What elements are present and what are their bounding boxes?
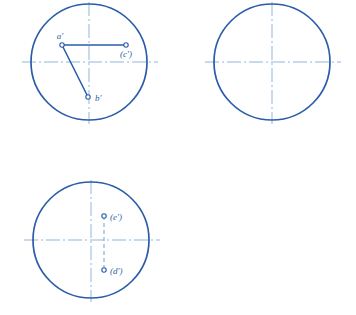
technical-drawing-canvas: a' (c') b' (e') (d') <box>0 0 356 315</box>
segment-a-b <box>62 45 88 97</box>
view-top-left: a' (c') b' <box>22 2 158 124</box>
point-label-b: b' <box>95 93 103 103</box>
point-label-e: (e') <box>110 212 122 222</box>
point-marker-d <box>102 268 106 272</box>
view-top-right <box>205 2 341 124</box>
point-marker-a <box>60 43 64 47</box>
view-bottom-left: (e') (d') <box>24 180 160 302</box>
point-marker-b <box>86 95 90 99</box>
point-marker-c <box>124 43 128 47</box>
point-label-a: a' <box>57 31 65 41</box>
point-label-d: (d') <box>110 266 122 276</box>
point-marker-e <box>102 214 106 218</box>
point-label-c: (c') <box>120 49 132 59</box>
